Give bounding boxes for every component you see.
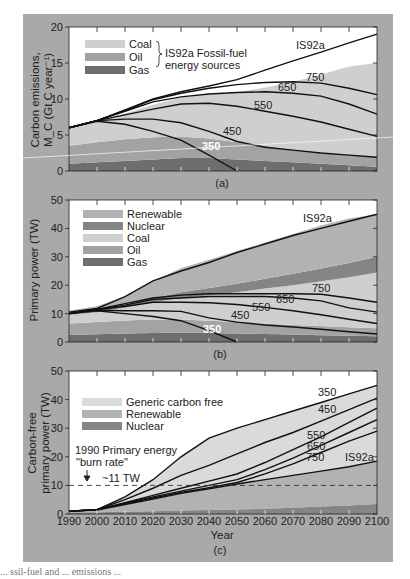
legend-swatch-nuclear (83, 222, 123, 230)
curve-label-450: 450 (231, 309, 249, 321)
legend-label-nuclear: Nuclear (126, 420, 164, 432)
x-tick-label: 2100 (365, 515, 389, 527)
legend-swatch-renewable (82, 410, 122, 418)
panel-a-carbon-emissions: 05101520 Coal Oil Gas IS92a Fossil-fuel … (29, 21, 377, 189)
legend-swatch-coal (83, 234, 123, 242)
legend-group-label-line1: IS92a Fossil-fuel (165, 47, 247, 59)
legend-label-coal: Coal (127, 232, 150, 244)
x-tick-label: 2070 (281, 515, 305, 527)
legend-swatch-generic-carbon-free (82, 398, 122, 406)
legend-label-oil: Oil (129, 51, 142, 63)
burn-rate-label-line1: 1990 Primary energy (75, 444, 178, 456)
curve-label-550: 550 (252, 301, 270, 313)
y-axis-title-line2: M_C (Gt C year⁻¹) (42, 53, 54, 147)
legend-group-label-line2: energy sources (165, 59, 241, 71)
curve-label-450: 450 (318, 403, 336, 415)
y-axis-title-line1: Carbon-free (26, 412, 38, 473)
curve-label-350: 350 (203, 323, 221, 335)
y-tick-label: 0 (57, 165, 63, 177)
legend-swatch-gas (83, 258, 123, 266)
legend-swatch-oil (83, 246, 123, 254)
x-tick-label: 2030 (169, 515, 193, 527)
y-tick-label: 30 (51, 251, 63, 263)
legend-label-oil: Oil (127, 244, 140, 256)
legend-label-gas: Gas (127, 256, 148, 268)
x-tick-label: 2050 (225, 515, 249, 527)
curve-label-550: 550 (254, 99, 272, 111)
x-tick-label: 2020 (141, 515, 165, 527)
legend-label-renewable: Renewable (126, 408, 181, 420)
y-tick-label: 50 (51, 365, 63, 377)
panel-a-y-axis-title: Carbon emissions, M_C (Gt C year⁻¹) (29, 52, 54, 147)
curve-label-650: 650 (278, 81, 296, 93)
y-tick-label: 10 (51, 308, 63, 320)
y-tick-label: 20 (51, 279, 63, 291)
panel-b-primary-power: 01020304050 Renewable Nuclear Coal Oil G… (28, 194, 377, 360)
burn-rate-value-label: ~11 TW (102, 472, 140, 484)
figure: 05101520 Coal Oil Gas IS92a Fossil-fuel … (0, 0, 410, 579)
curve-label-650: 650 (276, 293, 294, 305)
y-tick-label: 40 (51, 394, 63, 406)
x-tick-label: 2000 (85, 515, 109, 527)
y-tick-label: 20 (51, 451, 63, 463)
y-tick-label: 0 (57, 336, 63, 348)
y-axis-title-line1: Carbon emissions, (29, 52, 41, 147)
x-tick-label: 2080 (309, 515, 333, 527)
y-tick-label: 30 (51, 422, 63, 434)
legend-swatch-renewable (83, 210, 123, 218)
legend-label-nuclear: Nuclear (127, 220, 165, 232)
legend-swatch-oil (85, 53, 125, 61)
x-tick-label: 2060 (253, 515, 277, 527)
x-tick-label: 2010 (113, 515, 137, 527)
x-tick-label: 2040 (197, 515, 221, 527)
curve-label-750: 750 (312, 282, 330, 294)
legend-swatch-nuclear (82, 422, 122, 430)
y-tick-label: 40 (51, 222, 63, 234)
legend-label-renewable: Renewable (127, 208, 182, 220)
x-axis-title: Year (210, 529, 233, 541)
curve-label-is92a: IS92a (296, 39, 326, 51)
curve-label-is92a: IS92a (303, 212, 333, 224)
y-axis-title-line2: primary power (TW) (39, 392, 51, 494)
legend-swatch-gas (85, 66, 125, 74)
curve-label-750: 750 (306, 451, 324, 463)
curve-label-350: 350 (318, 386, 336, 398)
y-tick-label: 20 (51, 21, 63, 33)
burn-rate-label-line2: "burn rate" (76, 456, 128, 468)
caption-fragment: ... ssil-fuel and ... emissions ... (0, 566, 410, 579)
y-tick-label: 10 (51, 479, 63, 491)
panel-label-b: (b) (213, 348, 226, 360)
legend-label-coal: Coal (129, 38, 152, 50)
legend-label-generic-carbon-free: Generic carbon free (126, 396, 223, 408)
x-tick-label: 2090 (337, 515, 361, 527)
legend-swatch-coal (85, 40, 125, 48)
curve-label-is92a: IS92a (345, 451, 375, 463)
legend-label-gas: Gas (129, 64, 150, 76)
y-tick-label: 50 (51, 194, 63, 206)
curve-label-450: 450 (223, 125, 241, 137)
curve-label-350: 350 (202, 140, 220, 152)
panel-label-c: (c) (214, 544, 227, 556)
y-tick-label: 5 (57, 129, 63, 141)
curve-label-750: 750 (306, 71, 324, 83)
panel-b-y-axis-title: Primary power (TW) (28, 218, 40, 321)
x-tick-label: 1990 (57, 515, 81, 527)
panel-label-a: (a) (215, 177, 228, 189)
